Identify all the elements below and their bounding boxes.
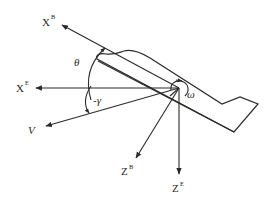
xb-axis (62, 25, 179, 88)
diagram-canvas: X B X E V Z B Z E θ -γ ω (0, 0, 272, 203)
ze-label: Z (172, 182, 179, 194)
xb-label: X (42, 16, 50, 28)
theta-label: θ (74, 56, 80, 68)
zb-label-sup: B (129, 163, 134, 170)
ze-label-sup: E (180, 180, 184, 187)
xb-label-sup: B (51, 13, 56, 20)
frames-diagram: X B X E V Z B Z E θ -γ ω (0, 0, 272, 203)
omega-label: ω (187, 88, 195, 100)
xe-label-sup: E (25, 79, 29, 86)
gamma-arc (85, 86, 91, 113)
v-label: V (28, 124, 36, 136)
zb-label: Z (121, 165, 128, 177)
gamma-label: -γ (93, 94, 102, 106)
xe-label: X (16, 82, 24, 94)
